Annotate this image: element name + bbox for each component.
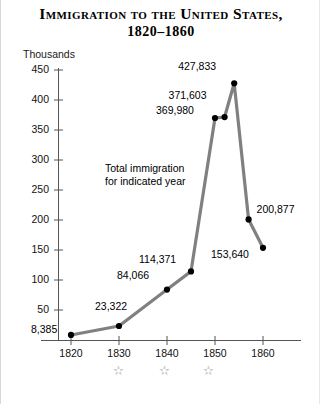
data-point-marker xyxy=(188,268,194,274)
data-point-label: 84,066 xyxy=(117,269,149,281)
data-point-marker xyxy=(231,80,237,86)
data-point-label: 23,322 xyxy=(95,300,127,312)
data-point-label: 114,371 xyxy=(139,253,176,265)
data-point-marker xyxy=(222,114,228,120)
line-chart-svg xyxy=(1,0,320,404)
chart-annotation: Total immigration for indicated year xyxy=(105,162,186,188)
data-point-label: 427,833 xyxy=(178,60,216,72)
x-axis-tick-label: 1840 xyxy=(147,347,187,359)
y-axis-tick-label: 450 xyxy=(19,63,49,75)
x-axis-tick-label: 1830 xyxy=(99,347,139,359)
star-icon: ✫ xyxy=(203,364,214,377)
y-axis-tick-label: 150 xyxy=(19,243,49,255)
data-point-label: 371,603 xyxy=(169,89,207,101)
data-point-marker xyxy=(68,332,74,338)
data-point-marker xyxy=(164,286,170,292)
x-axis-tick-label: 1850 xyxy=(195,347,235,359)
y-axis-tick-label: 250 xyxy=(19,183,49,195)
y-axis-tick-label: 350 xyxy=(19,123,49,135)
data-point-marker xyxy=(212,115,218,121)
data-line xyxy=(71,83,263,335)
plot-area: 50100150200250300350400450 1820183018401… xyxy=(1,0,320,404)
y-axis-tick-label: 100 xyxy=(19,273,49,285)
x-axis-tick-label: 1820 xyxy=(51,347,91,359)
data-point-marker xyxy=(246,216,252,222)
annotation-line-1: Total immigration xyxy=(105,162,186,175)
y-axis-tick-label: 300 xyxy=(19,153,49,165)
y-axis-tick-label: 50 xyxy=(19,303,49,315)
star-icon: ✫ xyxy=(113,364,124,377)
data-point-marker xyxy=(260,245,266,251)
data-point-label: 153,640 xyxy=(211,248,249,260)
data-point-label: 369,980 xyxy=(156,104,194,116)
star-icon: ✫ xyxy=(159,364,170,377)
y-axis-tick-label: 200 xyxy=(19,213,49,225)
chart-page: Immigration to the United States, 1820–1… xyxy=(0,0,320,404)
annotation-line-2: for indicated year xyxy=(105,175,186,188)
data-point-marker xyxy=(116,323,122,329)
data-point-label: 8,385 xyxy=(31,323,57,335)
x-axis-tick-label: 1860 xyxy=(243,347,283,359)
y-axis-tick-label: 400 xyxy=(19,93,49,105)
data-point-label: 200,877 xyxy=(257,203,295,215)
